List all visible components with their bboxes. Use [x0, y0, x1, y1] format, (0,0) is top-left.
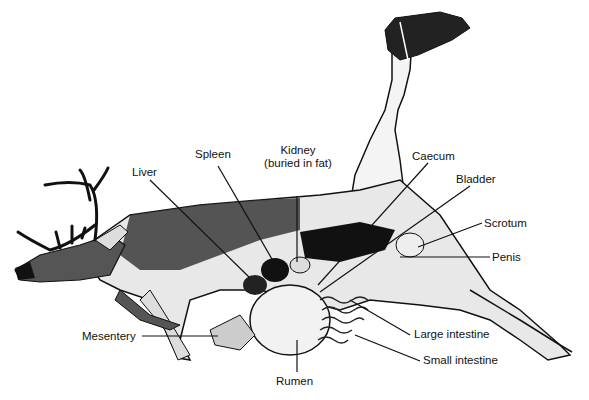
- scrotum-organ: [396, 233, 424, 257]
- label-kidney: Kidney (buried in fat): [262, 144, 334, 170]
- label-kidney-line2: (buried in fat): [262, 157, 334, 170]
- label-rumen: Rumen: [276, 375, 313, 388]
- label-liver: Liver: [132, 166, 157, 179]
- label-caecum: Caecum: [412, 150, 455, 163]
- label-kidney-line1: Kidney: [262, 144, 334, 157]
- label-large-intestine: Large intestine: [414, 328, 489, 341]
- label-spleen: Spleen: [195, 148, 231, 161]
- deer-anatomy-diagram: Spleen Kidney (buried in fat) Caecum Liv…: [0, 0, 589, 400]
- label-mesentery: Mesentery: [82, 330, 136, 343]
- mesentery-organ: [210, 315, 255, 350]
- kidney-organ: [290, 257, 310, 273]
- spleen-organ: [261, 258, 289, 282]
- liver-organ: [243, 275, 267, 295]
- label-bladder: Bladder: [456, 173, 496, 186]
- label-penis: Penis: [492, 251, 521, 264]
- label-scrotum: Scrotum: [484, 217, 527, 230]
- rumen-organ: [250, 285, 330, 355]
- gloved-hand: [385, 12, 470, 60]
- label-small-intestine: Small intestine: [423, 354, 498, 367]
- antlers: [18, 168, 108, 250]
